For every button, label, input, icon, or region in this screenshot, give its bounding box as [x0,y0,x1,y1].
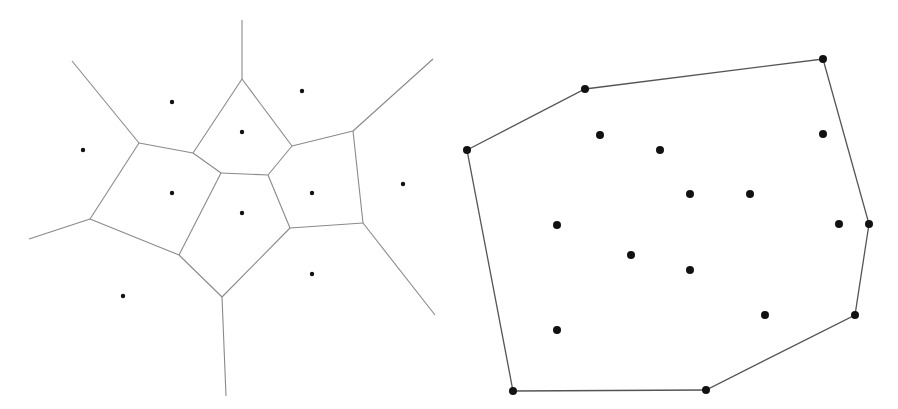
hull-vertex [463,146,471,154]
interior-point [835,220,843,228]
interior-point [746,190,754,198]
interior-point [596,131,604,139]
interior-point [761,311,769,319]
convex-hull-diagram [0,0,898,409]
interior-point [656,146,664,154]
interior-point [553,221,561,229]
hull-vertex [581,85,589,93]
hull-vertex [865,220,873,228]
hull-vertex [702,386,710,394]
hull-vertex [851,311,859,319]
interior-point [686,190,694,198]
interior-point [819,130,827,138]
interior-point [686,266,694,274]
interior-point [553,326,561,334]
hull-vertex [509,387,517,395]
hull-vertex [819,55,827,63]
interior-point [627,251,635,259]
diagram-canvas [0,0,898,409]
hull-outline [467,59,869,391]
